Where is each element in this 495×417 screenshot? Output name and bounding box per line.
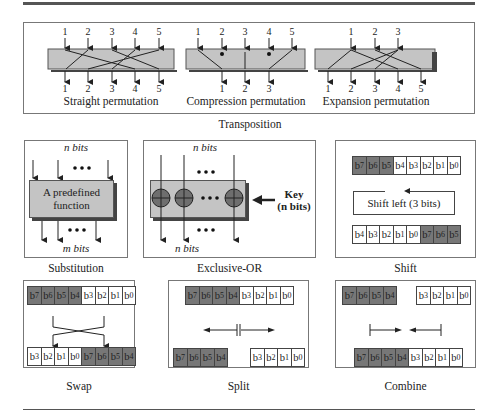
bit-cell-b2: b2	[422, 348, 437, 367]
combine-caption: Combine	[335, 380, 476, 392]
bit-cell-b3: b3	[408, 348, 423, 367]
bit-cell-b6: b6	[368, 348, 383, 367]
bit-cell-b0: b0	[449, 348, 464, 367]
bit-cell-b7: b7	[354, 348, 369, 367]
combine-after-bits: b7b6b5b4b3b2b1b0	[355, 348, 463, 367]
bit-cell-b5: b5	[381, 348, 396, 367]
bit-cell-b1: b1	[435, 348, 450, 367]
bit-cell-b4: b4	[395, 348, 410, 367]
